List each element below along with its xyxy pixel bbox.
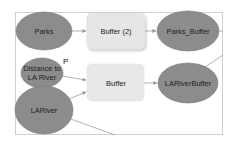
node-lariver-buffer-label: LARiverBuffer bbox=[165, 79, 212, 88]
model-canvas: Parks Buffer (2) Parks_Buffer Distance t… bbox=[0, 0, 236, 147]
edge-lariver-out[interactable] bbox=[68, 118, 115, 135]
node-buffer-label: Buffer bbox=[106, 79, 126, 88]
node-lariver-label: LARiver bbox=[31, 106, 58, 115]
node-distance-label: Distance to LA River bbox=[21, 64, 63, 82]
edge-lariverbuffer-out[interactable] bbox=[205, 55, 223, 67]
node-buffer-2-label: Buffer (2) bbox=[100, 27, 131, 36]
parameter-badge: P bbox=[63, 58, 68, 66]
node-parks-label: Parks bbox=[34, 27, 53, 36]
node-parks-buffer-label: Parks_Buffer bbox=[166, 27, 209, 36]
edge-lariver-buffer[interactable] bbox=[69, 92, 86, 99]
edge-distance-buffer[interactable] bbox=[62, 76, 86, 80]
